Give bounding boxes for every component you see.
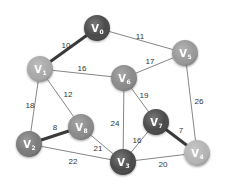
edge-weight-label: 24 bbox=[111, 119, 120, 128]
node-v6: V6 bbox=[111, 65, 137, 91]
edge-weight-label: 22 bbox=[69, 157, 78, 166]
node-v2: V2 bbox=[16, 131, 42, 157]
edge-weight-label: 7 bbox=[179, 126, 184, 135]
edge-weight-label: 18 bbox=[26, 101, 35, 110]
node-label: V bbox=[91, 23, 99, 34]
node-v5: V5 bbox=[172, 40, 198, 66]
node-v0: V0 bbox=[84, 15, 110, 41]
node-label: V bbox=[23, 139, 31, 150]
node-v8: V8 bbox=[68, 114, 94, 140]
node-subscript: 3 bbox=[125, 162, 129, 169]
node-subscript: 5 bbox=[187, 53, 191, 60]
node-subscript: 7 bbox=[158, 122, 162, 129]
node-label: V bbox=[118, 73, 126, 84]
node-subscript: 6 bbox=[126, 78, 130, 85]
node-subscript: 4 bbox=[199, 153, 203, 160]
node-v7: V7 bbox=[143, 109, 169, 135]
node-label: V bbox=[34, 64, 42, 75]
node-label: V bbox=[191, 148, 199, 159]
node-subscript: 8 bbox=[83, 127, 87, 134]
edge-weight-label: 21 bbox=[94, 144, 103, 153]
edge-weight-label: 19 bbox=[140, 91, 149, 100]
edge-weight-label: 10 bbox=[62, 41, 71, 50]
edge-weight-label: 16 bbox=[78, 64, 87, 73]
edge-weight-label: 11 bbox=[136, 32, 145, 41]
node-label: V bbox=[150, 117, 158, 128]
node-v1: V1 bbox=[27, 56, 53, 82]
edge-weight-label: 12 bbox=[64, 90, 73, 99]
edge-weight-label: 17 bbox=[146, 57, 155, 66]
node-subscript: 0 bbox=[99, 28, 103, 35]
nodes-layer: V0V1V2V3V4V5V6V7V8 bbox=[16, 15, 210, 175]
node-v4: V4 bbox=[184, 140, 210, 166]
edge-weight-label: 26 bbox=[195, 97, 204, 106]
node-subscript: 2 bbox=[31, 144, 35, 151]
edge-weight-label: 16 bbox=[133, 136, 142, 145]
node-label: V bbox=[75, 122, 83, 133]
node-v3: V3 bbox=[110, 149, 136, 175]
edges-layer bbox=[29, 28, 197, 162]
node-label: V bbox=[117, 157, 125, 168]
edge-weight-label: 8 bbox=[53, 123, 58, 132]
node-label: V bbox=[179, 48, 187, 59]
node-subscript: 1 bbox=[42, 69, 46, 76]
graph-canvas: 1011161718128222124192616720 V0V1V2V3V4V… bbox=[0, 0, 229, 193]
edge-weight-label: 20 bbox=[159, 160, 168, 169]
